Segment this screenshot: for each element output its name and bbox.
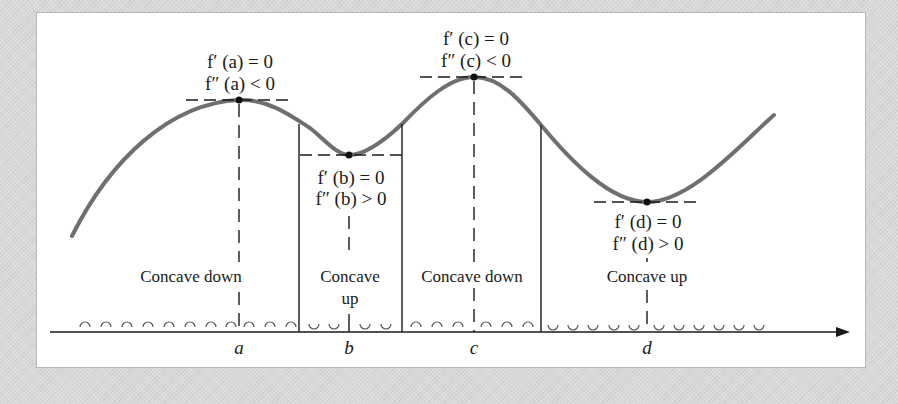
- cond-c-second: f″ (c) < 0: [441, 50, 511, 72]
- region-label-4: Concave up: [607, 267, 688, 286]
- cond-d-first: f′ (d) = 0: [614, 211, 681, 233]
- axis-label-a: a: [234, 337, 244, 358]
- cond-b-first: f′ (b) = 0: [317, 167, 384, 189]
- cond-b-second: f″ (b) > 0: [316, 188, 387, 210]
- cond-d-second: f″ (d) > 0: [613, 233, 684, 255]
- critical-point-b: [346, 152, 353, 159]
- concavity-diagram: f′ (a) = 0 f″ (a) < 0 f′ (b) = 0 f″ (b) …: [0, 0, 898, 404]
- x-axis-arrow-icon: [836, 327, 850, 337]
- cond-c-first: f′ (c) = 0: [443, 28, 509, 50]
- region-label-2-line2: up: [342, 289, 359, 308]
- critical-point-c: [471, 74, 478, 81]
- axis-label-c: c: [470, 337, 479, 358]
- cond-a-first: f′ (a) = 0: [207, 51, 273, 73]
- concave-up-marks-2: [309, 324, 391, 329]
- axis-label-b: b: [344, 337, 354, 358]
- axis-label-d: d: [642, 337, 652, 358]
- concave-down-marks-3: [411, 322, 533, 327]
- cond-a-second: f″ (a) < 0: [205, 73, 275, 95]
- critical-point-a: [236, 97, 243, 104]
- region-label-3: Concave down: [421, 267, 523, 286]
- critical-point-d: [644, 199, 651, 206]
- concave-up-marks-4: [548, 325, 764, 330]
- region-label-1: Concave down: [140, 267, 242, 286]
- concave-down-marks-1: [80, 322, 296, 327]
- region-label-2-line1: Concave: [320, 267, 379, 286]
